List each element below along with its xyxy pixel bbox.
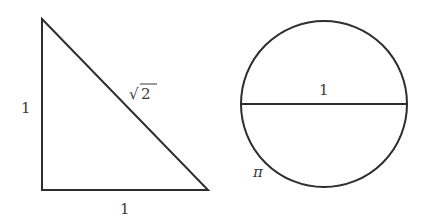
triangle-vertical-side-label: 1: [21, 99, 31, 117]
triangle-horizontal-side-label: 1: [120, 200, 130, 218]
sqrt-radicand: 2: [141, 85, 151, 103]
right-triangle: 1 1 √ 2: [21, 19, 208, 218]
circle-circumference-label: π: [252, 163, 264, 181]
triangle-shape: [42, 19, 208, 190]
triangle-hypotenuse-label: √ 2: [129, 84, 157, 103]
circle-diameter-label: 1: [319, 81, 329, 99]
circle-figure: 1 π: [241, 21, 407, 187]
sqrt-radical-sign: √: [129, 85, 139, 103]
geometry-diagram: 1 1 √ 2 1 π: [0, 0, 430, 223]
